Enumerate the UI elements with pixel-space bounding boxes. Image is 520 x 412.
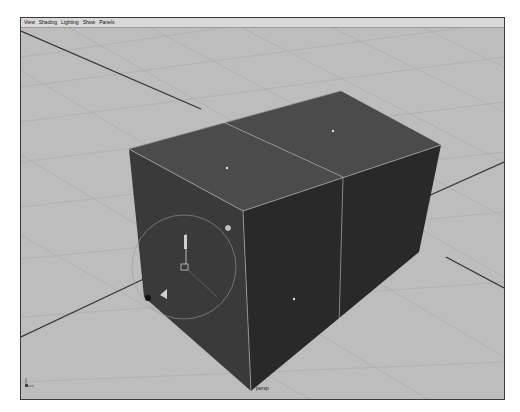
pivot-point[interactable] [145, 295, 151, 301]
vertex-marker [226, 226, 231, 231]
3d-scene[interactable] [21, 27, 504, 399]
y-axis-arrow[interactable] [184, 235, 187, 249]
viewport-menubar: View Shading Lighting Show Panels [21, 18, 504, 28]
menu-shading[interactable]: Shading [39, 18, 57, 27]
menu-show[interactable]: Show [83, 18, 96, 27]
menu-view[interactable]: View [24, 18, 35, 27]
menu-panels[interactable]: Panels [99, 18, 114, 27]
view-axis-gizmo [24, 376, 38, 388]
perspective-viewport[interactable]: View Shading Lighting Show Panels [20, 17, 505, 400]
menu-lighting[interactable]: Lighting [61, 18, 79, 27]
camera-label: persp [256, 385, 269, 391]
